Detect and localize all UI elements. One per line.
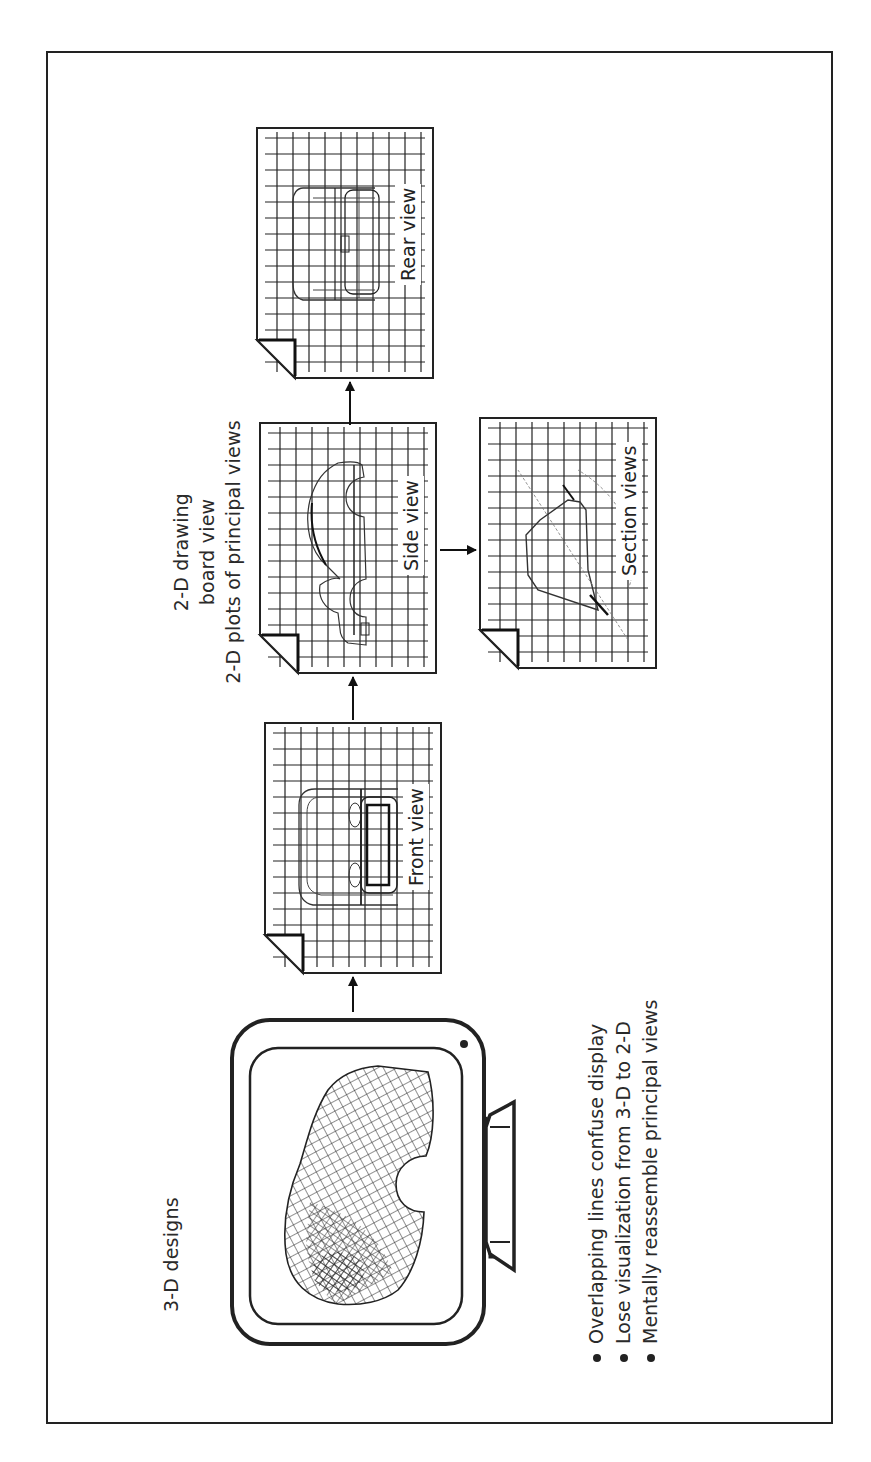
diagram-canvas: 3-D designs 2-D drawing board view 2-D p… [0,0,871,1462]
bullet-dot-icon [593,1354,601,1362]
bullet-dot-icon [620,1354,628,1362]
bullet-item: Mentally reassemble principal views [637,1000,664,1364]
bullet-item: Lose visualization from 3-D to 2-D [610,1000,637,1364]
bullet-dot-icon [647,1354,655,1362]
issues-bullet-list: Overlapping lines confuse display Lose v… [583,1000,664,1364]
bullet-item: Overlapping lines confuse display [583,1000,610,1364]
flow-arrows [0,0,871,1462]
